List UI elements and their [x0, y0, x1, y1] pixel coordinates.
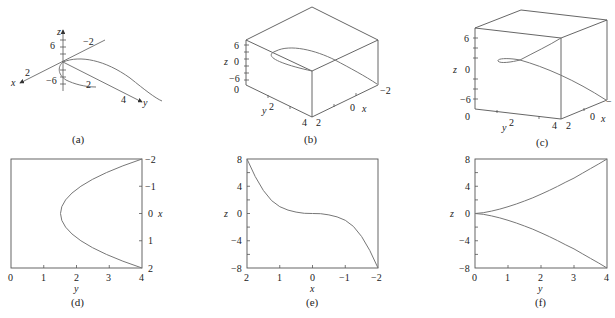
- y-tick-4: 4: [121, 94, 126, 105]
- xtick-3: 3: [106, 272, 111, 283]
- x-tick-neg2: −2: [83, 36, 94, 47]
- xlabel: y: [73, 283, 79, 294]
- ytick-2: 2: [148, 263, 153, 274]
- x-axis-label: x: [361, 103, 367, 114]
- ytick-4: 4: [237, 181, 242, 192]
- y-axis-label: y: [501, 122, 507, 133]
- caption-b: (b): [304, 133, 317, 146]
- upper-branch-curve: [475, 159, 607, 214]
- caption-a: (a): [72, 133, 85, 146]
- x-tick-2: 2: [566, 120, 571, 131]
- ytick-neg8: −8: [231, 263, 242, 274]
- xtick-0: 0: [8, 272, 13, 283]
- y-tick-0: 0: [234, 84, 239, 95]
- lower-branch-curve: [475, 214, 607, 269]
- panel-f-yz-projection: 8 4 z 0 −4 −8 0 1 2 3 4 y (f): [449, 154, 609, 309]
- y-tick-2: 2: [509, 117, 514, 128]
- ytick-8: 8: [237, 154, 242, 165]
- caption-f: (f): [535, 296, 546, 309]
- twisted-cubic-curve: [271, 48, 377, 84]
- xtick-4: 4: [604, 272, 609, 283]
- ytick-8: 8: [465, 154, 470, 165]
- xtick-2: 2: [538, 272, 543, 283]
- xlabel: y: [537, 283, 543, 294]
- twisted-cubic-curve: [498, 38, 606, 100]
- xtick-3: 3: [571, 272, 576, 283]
- ytick-4: 4: [465, 181, 470, 192]
- x-tick-2: 2: [25, 67, 30, 78]
- z-tick-neg6: −6: [229, 73, 240, 84]
- xtick-1: 1: [277, 272, 282, 283]
- curve-positive-branch: [63, 59, 162, 101]
- x-tick-neg2: −2: [380, 85, 391, 96]
- z-tick-6: 6: [234, 40, 239, 51]
- ytick-neg4: −4: [231, 235, 242, 246]
- ytick-0: 0: [237, 208, 242, 219]
- cubic-curve: [247, 159, 378, 268]
- ytick-neg8: −8: [459, 263, 470, 274]
- y-axis-label: y: [261, 105, 267, 116]
- panel-b-3d-box: 6 z 0 −6 0 y 2 4 2 0 x −2 (b): [223, 7, 391, 146]
- xtick-1: 1: [505, 272, 510, 283]
- ylabel: z: [449, 208, 454, 219]
- x-tick-0: 0: [350, 102, 355, 113]
- y-axis-label: y: [142, 97, 148, 108]
- x-tick-neg: −: [606, 96, 612, 107]
- caption-e: (e): [306, 296, 319, 309]
- xlabel: x: [309, 283, 315, 294]
- z-tick-neg6: −6: [460, 94, 471, 105]
- x-axis-label: x: [600, 113, 606, 124]
- xtick-neg1: −1: [339, 272, 350, 283]
- ylabel: z: [223, 208, 228, 219]
- y-tick-4: 4: [302, 117, 307, 128]
- caption-c: (c): [536, 136, 549, 149]
- z-tick-6: 6: [50, 40, 55, 51]
- parabola-curve: [61, 159, 143, 268]
- panel-e-xz-projection: 8 4 z 0 −4 −8 2 1 0 −1 −2 x (e): [223, 154, 382, 309]
- y-tick-4: 4: [552, 120, 557, 131]
- z-tick-0: 0: [465, 64, 470, 75]
- xtick-0: 0: [472, 272, 477, 283]
- ytick-0: 0: [465, 208, 470, 219]
- z-axis-label: z: [452, 64, 457, 75]
- ytick-neg1: −1: [145, 181, 156, 192]
- caption-d: (d): [71, 296, 84, 309]
- xtick-4: 4: [139, 272, 144, 283]
- y-tick-0: 0: [465, 111, 470, 122]
- y-tick-2: 2: [86, 79, 91, 90]
- xtick-2: 2: [244, 272, 249, 283]
- ytick-neg4: −4: [459, 235, 470, 246]
- ytick-1: 1: [148, 235, 153, 246]
- ytick-0: 0: [148, 208, 153, 219]
- z-tick-6: 6: [464, 33, 469, 44]
- x-tick-0: 0: [590, 111, 595, 122]
- y-tick-2: 2: [269, 101, 274, 112]
- z-axis-label: z: [56, 26, 61, 37]
- y-axis-line: [63, 62, 142, 102]
- xtick-neg2: −2: [371, 272, 382, 283]
- panel-c-3d-box: 6 z 0 −6 0 y 2 4 2 0 x − (c): [452, 10, 612, 149]
- xtick-1: 1: [41, 272, 46, 283]
- z-tick-neg6: −6: [46, 75, 57, 86]
- z-axis-label: z: [223, 56, 228, 67]
- ylabel: x: [157, 208, 163, 219]
- x-axis-label: x: [10, 77, 16, 88]
- ytick-neg2: −2: [145, 154, 156, 165]
- xtick-0: 0: [310, 272, 315, 283]
- panel-d-xy-projection: 0 1 2 3 4 y −2 −1 0 x 1 2 (d): [8, 154, 163, 309]
- figure-canvas: z 6 −6 −2 2 x 2 4 y (a) 6 z 0 −6 0 y 2 4…: [0, 0, 615, 318]
- xtick-2: 2: [74, 272, 79, 283]
- x-tick-2: 2: [316, 117, 321, 128]
- panel-a-3d-axes: z 6 −6 −2 2 x 2 4 y (a): [10, 26, 162, 146]
- z-tick-0: 0: [234, 56, 239, 67]
